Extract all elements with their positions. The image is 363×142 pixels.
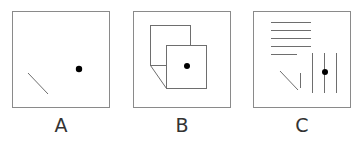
panel-b-fold-line: [151, 66, 167, 89]
panel-a-label: A: [41, 114, 81, 136]
panel-c: [254, 12, 351, 108]
panel-a-frame: [13, 12, 110, 108]
panel-a-diagonal-line: [28, 73, 48, 94]
panel-b-dot: [184, 63, 190, 69]
panel-c-diagonal-line: [280, 71, 298, 90]
panel-c-label: C: [282, 114, 322, 136]
panel-c-frame: [254, 12, 351, 108]
panel-b-label: B: [162, 114, 202, 136]
panel-c-dot: [322, 69, 328, 75]
panel-b: [134, 12, 231, 108]
panel-a-dot: [76, 66, 82, 72]
panel-a: [13, 12, 110, 108]
